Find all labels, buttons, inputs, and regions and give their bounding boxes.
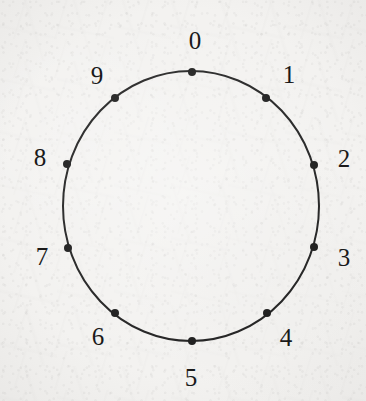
vertex-dot-5[interactable] <box>188 337 196 345</box>
figure-canvas: 0123456789 <box>0 0 366 401</box>
vertex-dot-7[interactable] <box>64 244 72 252</box>
vertex-label-3: 3 <box>338 245 351 270</box>
vertex-label-7: 7 <box>36 244 49 269</box>
vertex-label-6: 6 <box>92 324 105 349</box>
cycle-graph-svg <box>0 0 366 401</box>
vertex-dot-9[interactable] <box>111 94 119 102</box>
vertex-dot-1[interactable] <box>262 94 270 102</box>
vertex-dot-4[interactable] <box>263 309 271 317</box>
circle-outline <box>63 71 319 341</box>
vertex-label-4: 4 <box>280 325 293 350</box>
vertex-label-9: 9 <box>91 63 104 88</box>
vertex-label-8: 8 <box>34 145 47 170</box>
vertex-dot-0[interactable] <box>188 68 196 76</box>
vertex-dot-2[interactable] <box>310 161 318 169</box>
vertex-label-1: 1 <box>283 62 296 87</box>
vertex-dot-3[interactable] <box>310 243 318 251</box>
vertex-dot-6[interactable] <box>111 309 119 317</box>
vertex-label-0: 0 <box>189 28 202 53</box>
vertex-label-5: 5 <box>185 365 198 390</box>
vertex-label-2: 2 <box>338 146 351 171</box>
vertex-dot-8[interactable] <box>63 160 71 168</box>
